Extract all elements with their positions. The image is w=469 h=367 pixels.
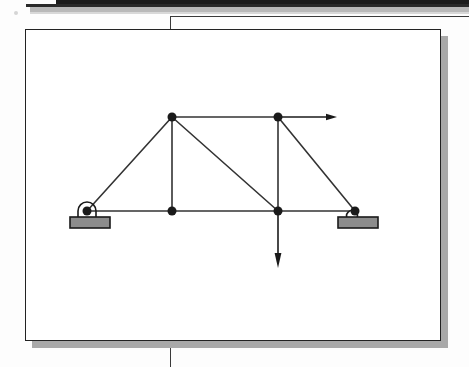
horizontal-load-arrow-head [326,114,337,120]
member-B-E [172,117,278,211]
figure-card [25,29,441,341]
bottom-load-node [274,207,283,216]
page-frame-vertical-rule-bottom [170,348,171,367]
truss-diagram [26,30,440,340]
right-support-node [351,207,360,216]
member-A-B [87,117,172,211]
truss-load-arrows-group [275,114,337,268]
page-frame-horizontal-rule [170,16,469,17]
vertical-load-arrow-head [275,253,282,268]
truss-nodes-group [83,113,360,216]
truss-supports-group [70,202,378,228]
scan-edge-gray-shadow-fade [30,12,469,14]
scan-speck-artifact [14,11,18,15]
left-support-node [83,207,92,216]
pin-support-left-plate [70,217,110,228]
page-frame-vertical-rule-top [170,16,171,30]
top-right-node [274,113,283,122]
top-left-node [168,113,177,122]
scanned-page: truss-free-body-diagram [0,0,469,367]
member-D-F [278,117,355,211]
bottom-mid-node [168,207,177,216]
roller-support-right-plate [338,217,378,228]
truss-members-group [87,117,355,211]
